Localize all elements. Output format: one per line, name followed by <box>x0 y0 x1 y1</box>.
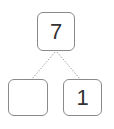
part-right-value: 1 <box>76 85 88 111</box>
whole-box: 7 <box>37 12 75 51</box>
whole-value: 7 <box>50 19 62 45</box>
part-box-right: 1 <box>63 79 102 116</box>
part-box-left[interactable] <box>8 79 48 116</box>
